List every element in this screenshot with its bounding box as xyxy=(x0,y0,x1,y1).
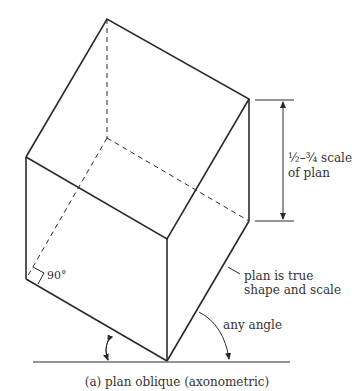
box-visible-edges xyxy=(26,19,249,361)
true-shape-label-line1: plan is true xyxy=(244,269,313,283)
figure-caption: (a) plan oblique (axonometric) xyxy=(85,375,270,389)
plan-oblique-diagram: ½–¾ scale of plan 90° plan is true shape… xyxy=(0,0,355,391)
leader-line xyxy=(228,267,240,274)
scale-label-line2: of plan xyxy=(288,166,330,180)
right-angle-mark xyxy=(33,267,44,284)
right-angle-label: 90° xyxy=(47,269,67,282)
any-angle-label: any angle xyxy=(223,318,282,332)
true-shape-label-line2: shape and scale xyxy=(244,283,341,297)
box-hidden-edges xyxy=(26,19,249,279)
scale-label-line1: ½–¾ scale xyxy=(288,151,352,165)
